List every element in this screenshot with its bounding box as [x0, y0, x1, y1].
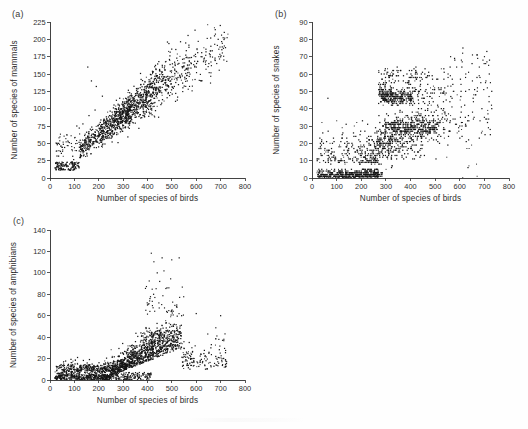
svg-text:400: 400 — [404, 182, 416, 191]
svg-text:25: 25 — [37, 156, 45, 165]
svg-text:800: 800 — [503, 182, 515, 191]
svg-text:300: 300 — [117, 182, 129, 191]
svg-text:600: 600 — [454, 182, 466, 191]
panel-snakes: (b) 010203040506070809001002003004005006… — [264, 0, 528, 212]
svg-text:200: 200 — [355, 182, 367, 191]
svg-text:700: 700 — [214, 384, 226, 393]
svg-text:50: 50 — [37, 139, 45, 148]
svg-text:60: 60 — [37, 311, 45, 320]
svg-text:Number of species of mammals: Number of species of mammals — [10, 40, 19, 159]
svg-text:90: 90 — [299, 18, 307, 27]
svg-text:100: 100 — [33, 268, 45, 277]
svg-text:140: 140 — [33, 226, 45, 235]
svg-text:700: 700 — [478, 182, 490, 191]
svg-text:200: 200 — [33, 35, 45, 44]
svg-text:Number of species of birds: Number of species of birds — [97, 396, 198, 405]
svg-text:400: 400 — [141, 182, 153, 191]
panel-label-c: (c) — [13, 216, 24, 226]
panel-mammals: (a) 025507510012515017520022501002003004… — [0, 0, 264, 212]
svg-text:Number of species of birds: Number of species of birds — [97, 194, 198, 203]
svg-text:0: 0 — [303, 174, 307, 183]
svg-text:600: 600 — [190, 182, 202, 191]
svg-text:Number of species of birds: Number of species of birds — [360, 194, 461, 203]
svg-text:Number of species of amphibian: Number of species of amphibians — [9, 242, 18, 368]
svg-text:500: 500 — [166, 182, 178, 191]
svg-text:30: 30 — [299, 122, 307, 131]
scatter-plot-mammals: 0255075100125150175200225010020030040050… — [0, 0, 264, 212]
svg-text:100: 100 — [68, 384, 80, 393]
svg-text:100: 100 — [33, 104, 45, 113]
svg-text:500: 500 — [166, 384, 178, 393]
svg-text:400: 400 — [141, 384, 153, 393]
scatter-plot-amphibians: 0204060801001201400100200300400500600700… — [0, 208, 264, 429]
svg-text:40: 40 — [37, 333, 45, 342]
svg-text:225: 225 — [33, 18, 45, 27]
svg-text:60: 60 — [299, 70, 307, 79]
svg-text:800: 800 — [239, 182, 251, 191]
figure-container: (a) 025507510012515017520022501002003004… — [0, 0, 528, 429]
panel-label-a: (a) — [12, 9, 24, 19]
svg-text:100: 100 — [68, 182, 80, 191]
svg-text:0: 0 — [48, 182, 52, 191]
scatter-plot-snakes: 0102030405060708090010020030040050060070… — [264, 0, 528, 212]
svg-text:0: 0 — [41, 376, 45, 385]
svg-text:40: 40 — [299, 104, 307, 113]
svg-text:80: 80 — [299, 35, 307, 44]
svg-text:20: 20 — [299, 139, 307, 148]
svg-text:600: 600 — [190, 384, 202, 393]
svg-text:700: 700 — [214, 182, 226, 191]
svg-text:0: 0 — [310, 182, 314, 191]
svg-text:120: 120 — [33, 247, 45, 256]
svg-text:0: 0 — [48, 384, 52, 393]
svg-text:200: 200 — [93, 384, 105, 393]
svg-text:150: 150 — [33, 70, 45, 79]
svg-text:100: 100 — [330, 182, 342, 191]
panel-amphibians: (c) 020406080100120140010020030040050060… — [0, 208, 264, 429]
svg-text:Number of species of snakes: Number of species of snakes — [272, 45, 281, 155]
svg-text:200: 200 — [93, 182, 105, 191]
svg-text:300: 300 — [117, 384, 129, 393]
svg-text:80: 80 — [37, 290, 45, 299]
svg-text:0: 0 — [41, 174, 45, 183]
svg-text:175: 175 — [33, 52, 45, 61]
svg-text:75: 75 — [37, 122, 45, 131]
svg-text:500: 500 — [429, 182, 441, 191]
svg-text:800: 800 — [239, 384, 251, 393]
svg-text:20: 20 — [37, 354, 45, 363]
svg-text:125: 125 — [33, 87, 45, 96]
svg-text:50: 50 — [299, 87, 307, 96]
svg-text:300: 300 — [380, 182, 392, 191]
svg-text:10: 10 — [299, 156, 307, 165]
panel-label-b: (b) — [275, 9, 287, 19]
svg-text:70: 70 — [299, 52, 307, 61]
